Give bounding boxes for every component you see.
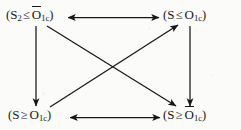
node-tl-relation: ≤ bbox=[22, 8, 32, 22]
node-top-right: (S≤O1c) bbox=[163, 8, 206, 23]
node-br-relation: ≥ bbox=[175, 108, 185, 122]
node-bl-variable: S bbox=[12, 107, 19, 122]
node-br-operand-subscript: 1c bbox=[194, 113, 202, 123]
node-bl-operand: O bbox=[30, 107, 40, 122]
node-br-close-paren: ) bbox=[202, 108, 206, 122]
node-tl-operand-overbar: O bbox=[32, 8, 42, 22]
node-tr-operand-subscript: 1c bbox=[194, 13, 202, 23]
node-tr-variable: S bbox=[167, 7, 174, 22]
node-br-operand: O bbox=[185, 107, 195, 122]
node-tl-operand: O bbox=[32, 7, 42, 22]
node-bottom-right: (S≥O1c) bbox=[163, 108, 206, 123]
node-top-left: (S2≤O1c) bbox=[6, 8, 54, 23]
node-tr-relation: ≤ bbox=[175, 8, 185, 22]
node-tr-operand: O bbox=[185, 7, 195, 22]
diagram-canvas: (S2≤O1c) (S≤O1c) (S≥O1c) (S≥O1c) bbox=[0, 0, 241, 130]
node-tl-close-paren: ) bbox=[49, 8, 53, 22]
node-br-variable: S bbox=[167, 107, 174, 122]
node-br-operand-overbar: O bbox=[185, 108, 195, 122]
node-bottom-left: (S≥O1c) bbox=[8, 108, 51, 123]
node-bl-close-paren: ) bbox=[47, 108, 51, 122]
node-bl-operand-subscript: 1c bbox=[39, 113, 47, 123]
node-tl-variable: S bbox=[10, 7, 17, 22]
node-bl-relation: ≥ bbox=[20, 108, 30, 122]
node-tr-close-paren: ) bbox=[202, 8, 206, 22]
